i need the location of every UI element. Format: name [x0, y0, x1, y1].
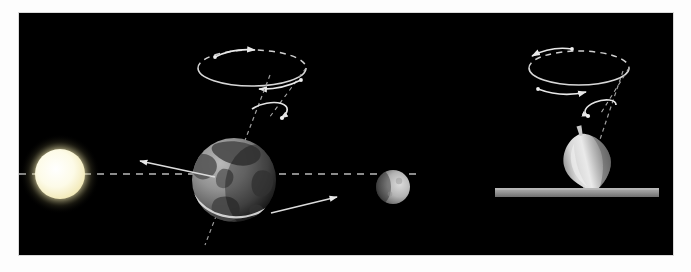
- top-precession-cone-back-arc: [529, 51, 629, 68]
- paper-margin-left: [0, 0, 19, 272]
- diagram-svg: [19, 13, 673, 255]
- top-spin-arrow: [585, 100, 616, 116]
- top-precession-arrow-top-dot: [570, 47, 574, 51]
- top-precession-arrow-top: [532, 48, 572, 56]
- top-spin-arrow-dot: [586, 114, 590, 118]
- earth-spin-arrow-dot: [280, 116, 284, 120]
- figure-root: [0, 0, 691, 272]
- precession-cone-front-arc: [198, 68, 306, 86]
- precession-arrow-bottom-dot: [299, 78, 303, 82]
- earth-precession-scene: [19, 50, 419, 245]
- precession-arrow-top-dot: [213, 55, 217, 59]
- spinning-top-scene: [495, 47, 659, 202]
- sun-core: [35, 149, 85, 199]
- top-stem: [577, 125, 584, 136]
- earth-terminator-shadow: [225, 144, 293, 232]
- precession-arrow-bottom: [259, 80, 301, 89]
- paper-margin-top: [0, 0, 691, 13]
- top-precession-arrow-bottom: [538, 89, 586, 94]
- top-precession-arrow-bottom-dot: [536, 87, 540, 91]
- sun: [20, 134, 100, 214]
- moon-crater-a: [396, 178, 402, 184]
- precession-cone-back-arc: [198, 50, 306, 68]
- earth-spin-arrow: [252, 103, 287, 118]
- top-precession-cone-front-arc: [529, 68, 629, 85]
- moon-crater-b: [388, 192, 393, 197]
- space-canvas: [19, 13, 673, 255]
- earth: [191, 138, 293, 232]
- paper-margin-right: [673, 0, 691, 272]
- paper-margin-bottom: [0, 255, 691, 272]
- orbital-arrow-right: [271, 197, 337, 213]
